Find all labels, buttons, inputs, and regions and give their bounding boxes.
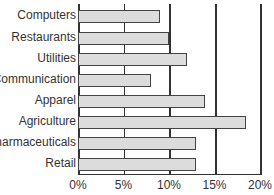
bar-restaurants (78, 32, 169, 45)
bar-apparel (78, 95, 205, 108)
bar-retail (78, 158, 196, 171)
x-tick-label: 0% (69, 178, 86, 192)
category-label: Communication (0, 72, 76, 86)
category-label: Retail (45, 156, 76, 170)
bar-communication (78, 74, 151, 87)
plot-area (78, 4, 260, 175)
category-label: Agriculture (19, 114, 76, 128)
x-tick-label: 5% (115, 178, 132, 192)
category-label: Utilities (37, 51, 76, 65)
bar-computers (78, 10, 160, 23)
category-label: Computers (17, 8, 76, 22)
x-tick-label: 10% (157, 178, 181, 192)
x-tick-label: 15% (202, 178, 226, 192)
x-tick-label: 20% (248, 178, 272, 192)
category-label: Restaurants (11, 30, 76, 44)
bar-agriculture (78, 116, 246, 129)
bar-pharmaceuticals (78, 137, 196, 150)
category-label: Pharmaceuticals (0, 135, 76, 149)
gridline-15 (215, 4, 217, 175)
gridline-20 (260, 4, 262, 175)
category-label: Apparel (35, 93, 76, 107)
bar-utilities (78, 53, 187, 66)
